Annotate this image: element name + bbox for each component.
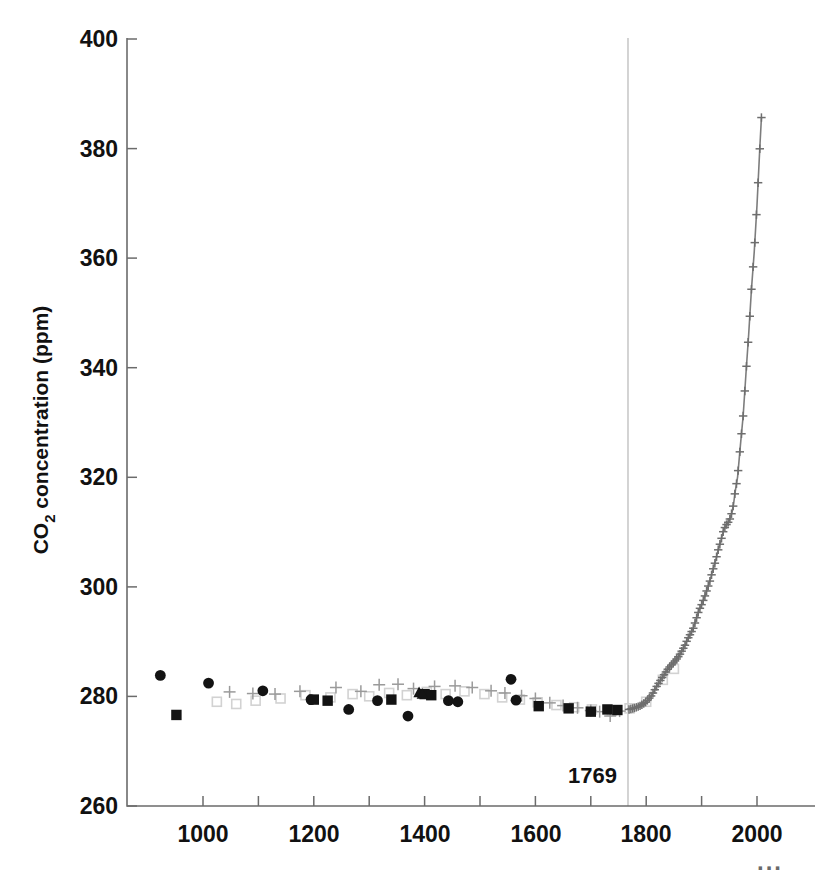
data-point-plus — [749, 263, 757, 271]
data-point-square — [402, 691, 411, 700]
data-point-plus — [224, 686, 236, 698]
data-point-square — [602, 704, 612, 714]
data-point-plus — [294, 685, 306, 697]
x-axis-tick-labels: 1000 1200 1400 1600 1800 2000 — [177, 821, 782, 847]
y-tick-label: 320 — [80, 464, 118, 490]
y-tick-label: 380 — [80, 136, 118, 162]
x-tick-label: 1200 — [288, 821, 339, 847]
y-axis-label: CO2 concentration (ppm) — [29, 306, 58, 555]
data-point-square — [212, 697, 221, 706]
x-axis-ticks — [203, 796, 757, 806]
data-point-plus — [714, 546, 722, 554]
data-point-plus — [737, 430, 745, 438]
data-point-plus — [706, 577, 714, 585]
data-point-circle — [506, 674, 517, 685]
svg-text:CO2 concentration (ppm): CO2 concentration (ppm) — [29, 306, 58, 555]
data-point-plus — [330, 682, 342, 694]
data-point-plus — [717, 534, 725, 542]
data-point-plus — [752, 210, 760, 218]
data-point-square — [309, 694, 319, 704]
data-point-square — [586, 706, 596, 716]
data-point-plus — [699, 596, 707, 604]
data-point-circle — [203, 678, 214, 689]
data-point-square — [322, 695, 332, 705]
data-point-square — [563, 703, 573, 713]
data-point-plus — [269, 688, 281, 700]
y-axis-label-subscript: 2 — [41, 515, 58, 523]
data-point-plus — [691, 619, 699, 627]
data-point-plus — [692, 614, 700, 622]
data-point-plus — [736, 448, 744, 456]
data-point-plus — [757, 113, 765, 121]
data-marker-layer — [155, 113, 766, 722]
data-point-plus — [727, 510, 735, 518]
data-point-plus — [373, 679, 385, 691]
data-point-circle — [403, 711, 414, 722]
data-point-plus — [712, 553, 720, 561]
y-axis-tick-labels: 260 280 300 320 340 360 380 400 — [80, 26, 118, 819]
data-point-plus — [747, 285, 755, 293]
data-point-plus — [485, 685, 497, 697]
data-point-circle — [155, 670, 166, 681]
data-point-circle — [372, 695, 383, 706]
x-tick-label: 2000 — [731, 821, 782, 847]
x-tick-label: 1000 — [177, 821, 228, 847]
y-axis-label-main: concentration (ppm) — [29, 306, 52, 509]
data-point-circle — [443, 695, 454, 706]
data-point-plus — [729, 502, 737, 510]
data-point-plus — [544, 697, 556, 709]
y-tick-label: 400 — [80, 26, 118, 52]
data-point-plus — [499, 687, 511, 699]
data-point-circle — [511, 695, 522, 706]
data-point-plus — [694, 608, 702, 616]
data-point-plus — [466, 682, 478, 694]
x-tick-label: 1800 — [620, 821, 671, 847]
data-point-plus — [702, 587, 710, 595]
data-point-plus — [704, 582, 712, 590]
data-point-plus — [709, 565, 717, 573]
data-point-square — [612, 705, 622, 715]
data-point-circle — [343, 704, 354, 715]
data-point-plus — [744, 338, 752, 346]
data-point-square — [171, 710, 181, 720]
y-tick-label: 360 — [80, 245, 118, 271]
data-point-square — [534, 701, 544, 711]
y-tick-label: 280 — [80, 683, 118, 709]
data-point-plus — [731, 490, 739, 498]
co2-chart-figure: CO2 concentration (ppm) 260 280 300 320 … — [0, 0, 823, 875]
axis-continuation-ellipsis: ... — [757, 848, 783, 875]
data-point-plus — [701, 592, 709, 600]
data-point-plus — [742, 362, 750, 370]
data-point-plus — [707, 571, 715, 579]
y-tick-label: 300 — [80, 574, 118, 600]
y-axis-label-prefix: CO — [29, 523, 52, 555]
y-axis-ticks — [127, 39, 137, 806]
data-point-plus — [751, 238, 759, 246]
data-point-square — [276, 694, 285, 703]
data-point-square — [386, 694, 396, 704]
data-point-plus — [741, 387, 749, 395]
data-point-plus — [732, 479, 740, 487]
x-tick-label: 1600 — [510, 821, 561, 847]
y-tick-label: 340 — [80, 355, 118, 381]
data-point-plus — [739, 412, 747, 420]
y-tick-label: 260 — [80, 793, 118, 819]
x-tick-label: 1400 — [399, 821, 450, 847]
data-point-plus — [756, 145, 764, 153]
data-point-plus — [734, 466, 742, 474]
data-point-plus — [754, 179, 762, 187]
data-point-plus — [746, 312, 754, 320]
data-point-square — [232, 699, 241, 708]
co2-concentration-plot: CO2 concentration (ppm) 260 280 300 320 … — [0, 0, 823, 875]
data-point-plus — [247, 688, 259, 700]
data-point-plus — [711, 559, 719, 567]
data-point-plus — [716, 540, 724, 548]
data-point-circle — [257, 685, 268, 696]
annotation-1769: 1769 — [568, 763, 617, 788]
data-point-circle — [452, 696, 463, 707]
